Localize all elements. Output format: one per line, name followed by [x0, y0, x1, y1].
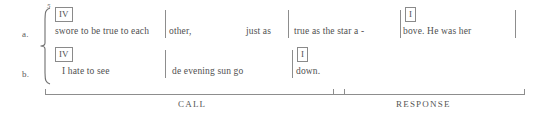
chord-box: I [297, 47, 308, 62]
lyric-segment: swore to be true to each [55, 26, 149, 36]
lyric-segment: other, [169, 26, 191, 36]
section-caption-response: RESPONSE [396, 99, 451, 109]
section-caption-call: CALL [178, 99, 206, 109]
barline [292, 50, 293, 78]
barline [400, 10, 401, 38]
lyric-segment: I hate to see [62, 66, 110, 76]
barline [288, 10, 289, 38]
lyric-segment: bove. He was her [403, 26, 471, 36]
chord-box: I [405, 7, 416, 22]
lyric-segment: true as the star a - [294, 26, 364, 36]
chord-box: IV [55, 7, 73, 22]
music-example-figure: 5 a. IV I swore to be true to each other… [0, 0, 538, 123]
barline [515, 10, 516, 38]
section-bracket-call [45, 89, 345, 95]
barline [165, 50, 166, 78]
lyric-segment: down. [296, 66, 320, 76]
barline [165, 10, 166, 38]
staff-row-a: IV I swore to be true to each other, jus… [0, 5, 538, 45]
section-bracket-response [333, 89, 525, 95]
lyric-segment: de evening sun go [172, 66, 243, 76]
lyric-segment: just as [246, 26, 271, 36]
staff-row-b: IV I I hate to see de evening sun go dow… [0, 45, 538, 85]
chord-box: IV [55, 47, 73, 62]
